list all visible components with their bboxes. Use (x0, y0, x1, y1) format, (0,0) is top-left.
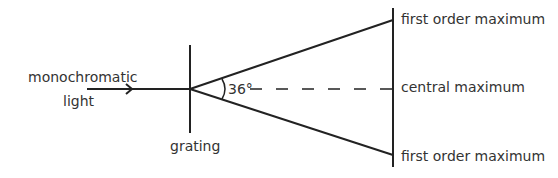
grating-label: grating (170, 138, 220, 154)
first-order-maximum-bottom-label: first order maximum (401, 148, 545, 164)
angle-label: 36° (228, 81, 253, 97)
central-maximum-label: central maximum (401, 79, 525, 95)
upper-diffracted-ray (190, 20, 393, 89)
lower-diffracted-ray (190, 89, 393, 155)
angle-arc (222, 79, 225, 99)
first-order-maximum-top-label: first order maximum (401, 11, 545, 27)
source-label-line2: light (63, 93, 94, 109)
source-label-line1: monochromatic (28, 69, 138, 85)
